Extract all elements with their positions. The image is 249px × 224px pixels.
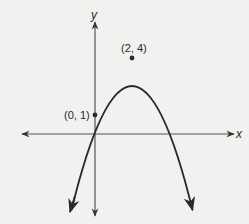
point-y-intercept xyxy=(93,113,98,118)
y-axis-label: y xyxy=(90,8,98,22)
parabola-curve xyxy=(72,86,193,210)
label-point-2-4: (2, 4) xyxy=(121,42,147,54)
point-vertex xyxy=(130,56,135,61)
x-axis-label: x xyxy=(235,127,243,141)
graph-canvas: y x (0, 1) (2, 4) xyxy=(0,0,249,224)
parabola-graph: y x (0, 1) (2, 4) xyxy=(0,0,249,224)
label-point-0-1: (0, 1) xyxy=(64,109,90,121)
